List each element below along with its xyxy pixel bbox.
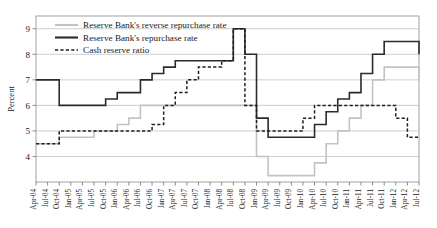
y-axis-tick-label: 6 xyxy=(26,101,31,111)
x-axis-tick-label: Apr-06 xyxy=(123,189,131,210)
x-axis-tick-label: Apr-08 xyxy=(216,189,224,210)
y-axis-tick-label: 5 xyxy=(26,126,31,136)
legend-label: Reserve Bank's repurchase rate xyxy=(83,33,198,43)
x-axis-tick-label: Jul-08 xyxy=(227,189,235,207)
y-axis-tick-label: 4 xyxy=(26,152,31,162)
x-axis-tick-label: Oct-05 xyxy=(100,189,108,209)
x-axis-tick-label: Apr-12 xyxy=(401,189,409,210)
x-axis-tick-label: Jan-05 xyxy=(65,189,73,209)
x-axis-tick-label: Jan-11 xyxy=(343,189,351,208)
x-axis-tick-label: Jan-08 xyxy=(204,189,212,209)
legend-label: Reserve Bank's reverse repurchase rate xyxy=(83,20,226,30)
y-axis-tick-label: 8 xyxy=(26,50,31,60)
x-axis-tick-label: Oct-11 xyxy=(378,189,386,209)
y-axis-tick-labels: 456789 xyxy=(26,24,31,162)
x-axis-tick-label: Jan-06 xyxy=(111,189,119,209)
x-axis-tick-label: Jul-09 xyxy=(274,189,282,207)
x-axis-tick-label: Oct-10 xyxy=(332,189,340,209)
x-axis-tick-label: Jul-04 xyxy=(42,189,50,207)
x-axis-ticks xyxy=(36,182,419,186)
chart-container: 456789 Apr-04Jul-04Oct-04Jan-05Apr-05Jul… xyxy=(0,0,437,228)
chart-svg: 456789 Apr-04Jul-04Oct-04Jan-05Apr-05Jul… xyxy=(0,0,437,228)
x-axis-tick-label: Oct-07 xyxy=(192,189,200,209)
x-axis-tick-label: Jul-12 xyxy=(413,189,421,207)
x-axis-tick-label: Oct-04 xyxy=(53,189,61,209)
x-axis-tick-label: Jul-10 xyxy=(320,189,328,207)
x-axis-tick-label: Jan-09 xyxy=(251,189,259,209)
y-axis-ticks xyxy=(33,29,37,157)
x-axis-tick-label: Jul-05 xyxy=(88,189,96,207)
y-axis-title: Percent xyxy=(6,86,16,112)
x-axis-tick-label: Oct-09 xyxy=(285,189,293,209)
x-axis-tick-label: Oct-06 xyxy=(146,189,154,209)
x-axis-tick-labels: Apr-04Jul-04Oct-04Jan-05Apr-05Jul-05Oct-… xyxy=(30,189,421,210)
legend-label: Cash reserve ratio xyxy=(83,45,150,55)
y-axis-tick-label: 9 xyxy=(26,24,31,34)
x-axis-tick-label: Apr-05 xyxy=(76,189,84,210)
x-axis-tick-label: Jan-07 xyxy=(158,189,166,209)
x-axis-tick-label: Apr-11 xyxy=(355,189,363,210)
x-axis-tick-label: Oct-08 xyxy=(239,189,247,209)
x-axis-tick-label: Jan-10 xyxy=(297,189,305,209)
x-axis-tick-label: Apr-09 xyxy=(262,189,270,210)
x-axis-tick-label: Apr-07 xyxy=(169,189,177,210)
x-axis-tick-label: Jan-12 xyxy=(390,189,398,209)
y-axis-tick-label: 7 xyxy=(26,75,31,85)
x-axis-tick-label: Apr-10 xyxy=(309,189,317,210)
x-axis-tick-label: Jul-11 xyxy=(367,189,375,207)
x-axis-tick-label: Apr-04 xyxy=(30,189,38,210)
x-axis-tick-label: Jul-06 xyxy=(134,189,142,207)
x-axis-tick-label: Jul-07 xyxy=(181,189,189,207)
